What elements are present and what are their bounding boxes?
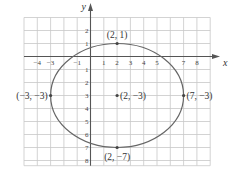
y-tick-label: 1 — [85, 66, 89, 74]
x-axis-arrow-icon — [212, 54, 220, 59]
x-tick-label: 1 — [102, 59, 106, 67]
x-tick-label: −3 — [47, 59, 55, 67]
y-tick-label: 1 — [85, 40, 89, 48]
x-tick-label: 5 — [155, 59, 159, 67]
point-label: (2, −3) — [120, 91, 146, 102]
point-marker — [49, 94, 52, 97]
y-tick-label: 8 — [85, 157, 89, 165]
x-tick-label: −4 — [34, 59, 42, 67]
point-marker — [116, 94, 119, 97]
x-tick-label: 2 — [115, 59, 119, 67]
y-tick-label: 3 — [85, 92, 89, 100]
point-label: (2, −7) — [104, 152, 130, 163]
x-tick-label: 3 — [129, 59, 133, 67]
x-tick-label: 8 — [195, 59, 199, 67]
point-label: (−3, −3) — [16, 91, 47, 102]
point-marker — [116, 146, 119, 149]
point-marker — [182, 94, 185, 97]
point-label: (2, 1) — [107, 30, 128, 41]
y-tick-label: 6 — [85, 131, 89, 139]
x-axis-label: x — [222, 57, 228, 68]
axes: xy — [24, 1, 228, 166]
point-label: (7, −3) — [187, 91, 213, 102]
point-marker — [116, 42, 119, 45]
y-tick-label: 2 — [85, 79, 89, 87]
y-tick-label: 4 — [85, 105, 89, 113]
graph-canvas: xy −4−3−112345782112345678 (2, 1)(−3, −3… — [0, 0, 230, 175]
x-tick-label: −1 — [73, 59, 81, 67]
y-axis-arrow-icon — [88, 3, 93, 11]
y-tick-label: 7 — [85, 144, 89, 152]
x-tick-label: 7 — [182, 59, 186, 67]
labeled-points: (2, 1)(−3, −3)(2, −3)(7, −3)(2, −7) — [16, 30, 212, 163]
y-axis-label: y — [81, 1, 87, 12]
y-tick-label: 5 — [85, 118, 89, 126]
y-tick-label: 2 — [85, 27, 89, 35]
grid-lines — [24, 18, 210, 166]
x-tick-label: 4 — [142, 59, 146, 67]
